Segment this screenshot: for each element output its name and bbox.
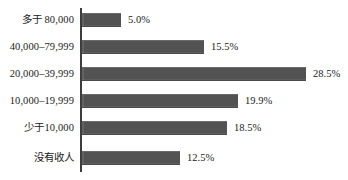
category-label: 没有收人 [0,147,74,169]
chart-plot-area: 多于 80,000 5.0% 40,000–79,999 15.5% 20,00… [0,0,348,180]
bar-group: 28.5% [82,63,340,85]
bar-group: 15.5% [82,36,238,58]
bar-value-label: 12.5% [187,151,214,165]
category-label: 10,000–19,999 [0,90,74,112]
bar-value-label: 15.5% [211,40,238,54]
bar[interactable] [82,94,238,108]
bar-row: 没有收人 12.5% [0,147,348,169]
bar[interactable] [82,13,121,27]
bar-row: 多于 80,000 5.0% [0,9,348,31]
bar-row: 10,000–19,999 19.9% [0,90,348,112]
bar[interactable] [82,121,227,135]
bar[interactable] [82,151,180,165]
bar-group: 19.9% [82,90,272,112]
bar-chart: 多于 80,000 5.0% 40,000–79,999 15.5% 20,00… [0,0,348,180]
bar-group: 5.0% [82,9,150,31]
category-label: 多于 80,000 [0,9,74,31]
bar[interactable] [82,67,306,81]
category-label: 40,000–79,999 [0,36,74,58]
category-label: 少于10,000 [0,117,74,139]
bar-row: 20,000–39,999 28.5% [0,63,348,85]
bar-row: 40,000–79,999 15.5% [0,36,348,58]
category-label: 20,000–39,999 [0,63,74,85]
bar-value-label: 18.5% [234,121,261,135]
bar-group: 12.5% [82,147,214,169]
bar-value-label: 28.5% [313,67,340,81]
bar-value-label: 19.9% [245,94,272,108]
bar[interactable] [82,40,204,54]
bar-row: 少于10,000 18.5% [0,117,348,139]
bar-value-label: 5.0% [128,13,150,27]
bar-group: 18.5% [82,117,261,139]
